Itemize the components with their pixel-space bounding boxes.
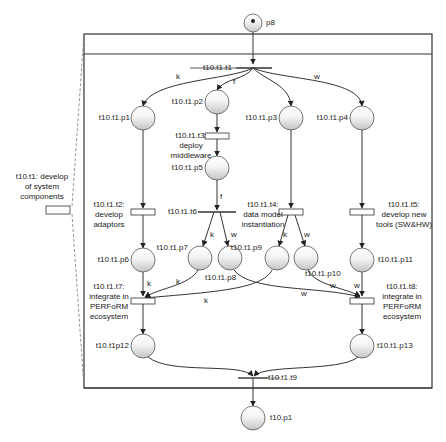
label-t7: t10.t1.t7: integrate in PERFoRM ecosyste… — [86, 282, 132, 322]
label-p4: t10.t1.p4 — [305, 113, 348, 123]
arc-weight-t1-p4: w — [314, 72, 320, 82]
transition-t5[interactable] — [350, 209, 374, 215]
label-p10: t10.t1.p10 — [305, 269, 341, 279]
label-t3: t10.t1.t3: deploy middleware — [170, 131, 212, 161]
transition-t7[interactable] — [131, 298, 155, 304]
label-p2: t10.t1.p2 — [160, 97, 203, 107]
place-p3[interactable] — [279, 106, 303, 130]
label-p3: t10.t1.p3 — [234, 113, 277, 123]
label-p12: t10.t1p12 — [86, 341, 129, 351]
arc-weight-t6-p8: w — [231, 230, 237, 240]
arc-weight-t1-p2: f — [233, 77, 235, 87]
transition-t8[interactable] — [350, 298, 374, 304]
label-p1: t10.t1.p1 — [88, 113, 130, 123]
label-p11: t10.t1.p11 — [378, 255, 413, 265]
arc-weight-t1-p1: k — [176, 72, 180, 82]
arc-weight-p10-t8: w — [330, 281, 336, 291]
expansion-dashed-bottom — [72, 214, 84, 388]
label-p13: t10.t1.p13 — [377, 341, 413, 351]
arc-weight-p9-t7: k — [204, 296, 208, 306]
label-p7: t10.t1.p7 — [145, 243, 188, 253]
place-p12[interactable] — [131, 334, 155, 358]
place-p2[interactable] — [205, 90, 229, 114]
arc-weight-p8-t8: w — [301, 289, 307, 299]
arc-weight-p5-t6: f — [220, 192, 222, 202]
place-p4[interactable] — [350, 106, 374, 130]
petri-net-diagram: p8 t10.t1.t1 t10.t1: develop of system c… — [0, 0, 446, 442]
label-t9: t10.t1.t9 — [268, 373, 297, 383]
arc-weight-p6-t7: k — [147, 279, 151, 289]
arc-weight-t4-p9: k — [283, 230, 287, 240]
subnet-label: t10.t1: develop of system components — [6, 172, 78, 202]
arc-weight-p7-t7: k — [176, 277, 180, 287]
place-p1[interactable] — [131, 106, 155, 130]
arc-weight-t4-p10: w — [304, 230, 310, 240]
label-p9: t10.t1.p9 — [219, 243, 262, 253]
label-t4: t10.t1.t4: data model instantiation — [238, 200, 288, 230]
arc-weight-p11-t8: w — [354, 281, 360, 291]
place-p9[interactable] — [265, 246, 289, 270]
label-t6: t10.t1.t6 — [168, 207, 197, 217]
label-t10-p1: t10.p1 — [270, 413, 292, 423]
arc-weight-t6-p7: k — [210, 230, 214, 240]
place-p11[interactable] — [350, 248, 374, 272]
label-t5: t10.t1.t5: develop new tools (SW&HW) — [376, 200, 432, 230]
label-p6: t10.t1.p6 — [86, 255, 129, 265]
label-t1: t10.t1.t1 — [203, 63, 232, 73]
label-t8: t10.t1.t8: integrate in PERFoRM ecosyste… — [378, 282, 426, 322]
place-t10-p1[interactable] — [241, 406, 265, 430]
label-p5: t10.t1.p5 — [160, 163, 203, 173]
place-p10[interactable] — [294, 246, 318, 270]
label-p8: p8 — [266, 18, 275, 28]
label-p8-inner: t10.t1.p8 — [205, 273, 236, 283]
place-p7[interactable] — [188, 246, 212, 270]
label-t2: t10.t1.t2: develop adaptors — [88, 200, 130, 230]
transition-t2[interactable] — [131, 209, 155, 215]
place-p13[interactable] — [350, 334, 374, 358]
transition-t10-t1[interactable] — [46, 206, 70, 214]
token-icon — [251, 19, 255, 23]
